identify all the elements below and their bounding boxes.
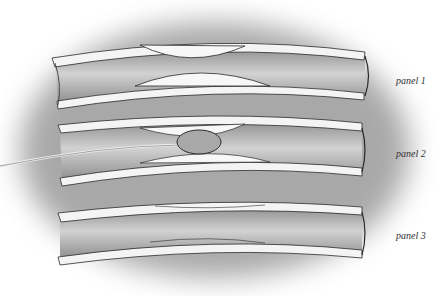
- panel-3-label: panel 3: [396, 230, 426, 241]
- vessel-illustration: [0, 0, 446, 296]
- panel-2-label: panel 2: [396, 148, 426, 159]
- panel-1-label: panel 1: [396, 75, 426, 86]
